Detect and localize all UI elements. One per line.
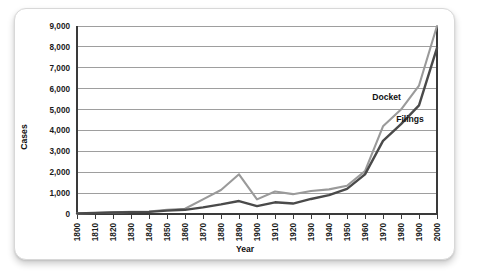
x-tick-label: 1910: [271, 223, 280, 242]
x-tick-label: 2000: [433, 223, 442, 242]
x-tick-label: 1850: [163, 223, 172, 242]
y-tick-label: 5,000: [50, 106, 71, 115]
x-tick-label: 1940: [325, 223, 334, 242]
x-tick-label: 1980: [397, 223, 406, 242]
series-label-docket: Docket: [372, 92, 401, 102]
x-tick-label: 1920: [289, 223, 298, 242]
x-tick-label: 1900: [415, 223, 424, 242]
axes-group: [77, 26, 437, 214]
x-tick-label: 1800: [73, 223, 82, 242]
cases-by-year-line-chart: 01,0002,0003,0004,0005,0006,0007,0008,00…: [15, 9, 456, 261]
x-tick-label: 1970: [379, 223, 388, 242]
y-tick-label: 9,000: [50, 22, 71, 31]
x-tick-label: 1860: [181, 223, 190, 242]
x-tick-label: 1840: [145, 223, 154, 242]
x-tick-label: 1890: [235, 223, 244, 242]
x-tick-label: 1930: [307, 223, 316, 242]
chart-card: 01,0002,0003,0004,0005,0006,0007,0008,00…: [14, 8, 455, 260]
x-axis-tick-labels: 1800181018201830184018501860187018801890…: [73, 223, 442, 242]
y-tick-label: 4,000: [50, 126, 71, 135]
x-axis-tick-marks: [77, 214, 437, 219]
x-tick-label: 1820: [109, 223, 118, 242]
y-tick-label: 7,000: [50, 64, 71, 73]
gridlines-group: [77, 26, 437, 193]
x-tick-label: 1880: [217, 223, 226, 242]
y-tick-label: 1,000: [50, 189, 71, 198]
y-axis-tick-labels: 01,0002,0003,0004,0005,0006,0007,0008,00…: [50, 22, 71, 219]
x-tick-label: 1830: [127, 223, 136, 242]
x-tick-label: 1950: [343, 223, 352, 242]
x-tick-label: 1870: [199, 223, 208, 242]
x-tick-label: 1900: [253, 223, 262, 242]
y-axis-title: Cases: [19, 124, 29, 150]
y-tick-label: 3,000: [50, 147, 71, 156]
y-tick-label: 0: [65, 210, 70, 219]
y-tick-label: 8,000: [50, 43, 71, 52]
x-tick-label: 1810: [91, 223, 100, 242]
series-line-docket: [77, 26, 437, 213]
x-tick-label: 1960: [361, 223, 370, 242]
y-tick-label: 2,000: [50, 168, 71, 177]
x-axis-title: Year: [236, 244, 255, 254]
series-lines-group: [77, 26, 437, 213]
series-label-filings: Filings: [396, 114, 424, 124]
y-tick-label: 6,000: [50, 85, 71, 94]
